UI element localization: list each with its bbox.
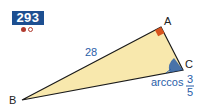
- triangle-abc: [22, 27, 183, 100]
- vertex-label-a: A: [164, 15, 172, 27]
- vertex-label-b: B: [9, 94, 16, 105]
- triangle-diagram: A B C 28 arccos 3 5: [0, 0, 204, 105]
- angle-c-numerator: 3: [187, 73, 193, 85]
- angle-c-denominator: 5: [187, 86, 193, 98]
- vertex-label-c: C: [185, 58, 193, 70]
- side-ab-length: 28: [85, 46, 97, 58]
- angle-c-prefix: arccos: [151, 76, 184, 88]
